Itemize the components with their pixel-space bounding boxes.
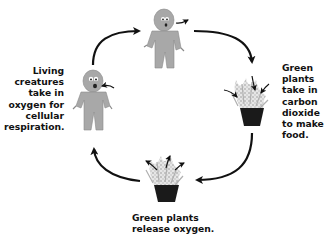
arrow-top-to-right xyxy=(194,31,252,62)
label-line: carbon xyxy=(282,96,330,107)
label-line: Green xyxy=(282,62,330,73)
label-line: Green plants xyxy=(132,212,242,223)
arrow-left-to-top xyxy=(93,31,139,65)
label-line: cellular xyxy=(4,110,64,121)
label-line: oxygen for xyxy=(4,99,64,110)
label-line: Living xyxy=(4,65,64,76)
label-line: food. xyxy=(282,129,330,140)
label-line: to make xyxy=(282,118,330,129)
label-line: take in xyxy=(282,84,330,95)
plant-releasing-o2-icon xyxy=(146,156,184,202)
arrow-right-to-bottom xyxy=(197,133,252,180)
plant-absorbing-co2-icon xyxy=(224,76,269,126)
label-line: respiration. xyxy=(4,121,64,132)
label-line: creatures xyxy=(4,76,64,87)
label-line: dioxide xyxy=(282,107,330,118)
label-line: take in xyxy=(4,87,64,98)
oxygen-carbon-cycle-diagram: Living creatures take in oxygen for cell… xyxy=(0,0,330,235)
label-green-plants-release-oxygen: Green plants release oxygen. xyxy=(132,212,242,234)
label-green-plants-take-in-co2: Green plants take in carbon dioxide to m… xyxy=(282,62,330,140)
person-exhaling-icon xyxy=(144,9,188,68)
label-line: release oxygen. xyxy=(132,223,242,234)
label-line: plants xyxy=(282,73,330,84)
arrow-bottom-to-left xyxy=(94,149,140,181)
person-inhaling-icon xyxy=(73,70,114,130)
label-living-creatures-take-in-oxygen: Living creatures take in oxygen for cell… xyxy=(4,65,64,132)
